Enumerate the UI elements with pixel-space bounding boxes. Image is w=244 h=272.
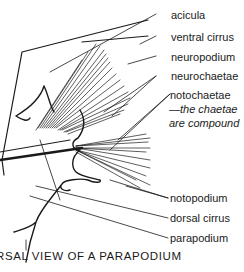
label-notochaetae: notochaetae xyxy=(170,89,231,101)
leader-notopodium-b xyxy=(126,186,168,198)
leader-neuropodium xyxy=(128,56,156,64)
label-notopodium: notopodium xyxy=(170,192,228,204)
leader-ventral-cirrus xyxy=(140,36,156,44)
label-neuropodium: neuropodium xyxy=(171,51,235,63)
leader-parapodium xyxy=(30,196,168,238)
leader-dorsal-cirrus xyxy=(36,186,168,218)
body-outline xyxy=(2,20,148,175)
label-ventral-cirrus: ventral cirrus xyxy=(171,31,234,43)
label-parapodium: parapodium xyxy=(170,232,228,244)
label-acicula: acicula xyxy=(171,9,205,21)
label-dorsal-cirrus: dorsal cirrus xyxy=(170,212,230,224)
figure-caption: RSAL VIEW OF A PARAPODIUM xyxy=(0,250,182,262)
label-notochaetae-note-line1: —the chaetae xyxy=(169,103,238,115)
parapodium-diagram: acicula ventral cirrus neuropodium neuro… xyxy=(0,0,244,272)
leader-neurochaetae-b xyxy=(112,76,156,116)
label-notochaetae-note-line2: are compound xyxy=(169,117,239,129)
label-neurochaetae: neurochaetae xyxy=(171,70,238,82)
leader-notochaetae-b xyxy=(110,94,170,150)
